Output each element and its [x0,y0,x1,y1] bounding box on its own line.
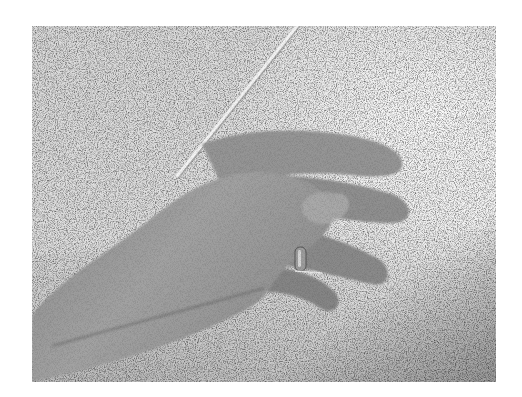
hand-photo-illustration [32,26,496,382]
film-grain [32,26,496,382]
photograph: Close-up of a relaxed right hand resting… [32,26,496,382]
